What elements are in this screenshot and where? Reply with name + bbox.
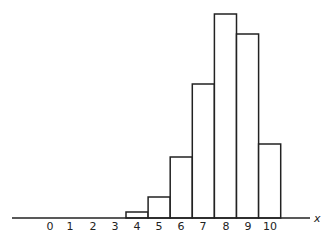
x-tick-label: 3: [112, 220, 119, 233]
x-tick-label: 1: [67, 220, 74, 233]
x-tick-label: 0: [47, 220, 54, 233]
bar-7: [192, 84, 214, 218]
bar-5: [148, 197, 170, 218]
x-axis-label: x: [313, 212, 321, 225]
x-tick-label: 10: [263, 220, 277, 233]
bars: [126, 14, 281, 218]
x-tick-label: 6: [178, 220, 185, 233]
x-tick-labels: 012345678910: [47, 220, 278, 233]
histogram-chart: 012345678910 x: [0, 0, 327, 241]
bar-9: [237, 34, 259, 218]
x-tick-label: 2: [90, 220, 97, 233]
x-tick-label: 5: [156, 220, 163, 233]
bar-6: [170, 157, 192, 218]
x-tick-label: 9: [245, 220, 252, 233]
x-tick-label: 4: [134, 220, 141, 233]
bar-10: [259, 144, 281, 218]
x-tick-label: 8: [223, 220, 230, 233]
x-tick-label: 7: [200, 220, 207, 233]
bar-8: [214, 14, 236, 218]
bar-4: [126, 212, 148, 218]
